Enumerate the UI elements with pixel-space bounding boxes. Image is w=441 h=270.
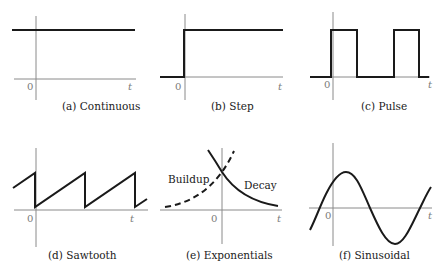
t-axis-label: t (130, 213, 135, 224)
origin-label: 0 (27, 81, 33, 92)
panel-step: 0 t (b) Step (160, 14, 283, 112)
origin-label: 0 (324, 79, 330, 90)
panel-continuous: 0 t (a) Continuous (12, 16, 140, 112)
caption: (b) Step (211, 100, 254, 112)
panel-sawtooth: 0 t (d) Sawtooth (13, 148, 148, 261)
buildup-label: Buildup (168, 173, 210, 185)
t-axis-label: t (277, 213, 282, 224)
t-axis-label: t (428, 79, 433, 90)
caption: (f) Sinusoidal (339, 249, 411, 261)
t-axis-label: t (428, 210, 433, 221)
step-signal (160, 30, 283, 77)
caption: (e) Exponentials (186, 249, 273, 261)
origin-label: 0 (211, 213, 217, 224)
signal-types-figure: 0 t (a) Continuous 0 t (b) Step 0 t (c) … (0, 0, 441, 270)
pulse-signal (310, 30, 429, 77)
origin-label: 0 (325, 210, 331, 221)
caption: (c) Pulse (361, 100, 407, 112)
t-axis-label: t (278, 81, 283, 92)
caption: (a) Continuous (62, 100, 140, 112)
panel-exponentials: Buildup Decay 0 t (e) Exponentials (160, 148, 282, 261)
t-axis-label: t (128, 81, 133, 92)
panel-sinusoidal: 0 t (f) Sinusoidal (309, 143, 433, 261)
panel-pulse: 0 t (c) Pulse (310, 12, 433, 112)
origin-label: 0 (27, 213, 33, 224)
caption: (d) Sawtooth (48, 249, 117, 261)
sawtooth-signal (13, 173, 147, 207)
decay-label: Decay (244, 179, 277, 191)
origin-label: 0 (175, 81, 181, 92)
